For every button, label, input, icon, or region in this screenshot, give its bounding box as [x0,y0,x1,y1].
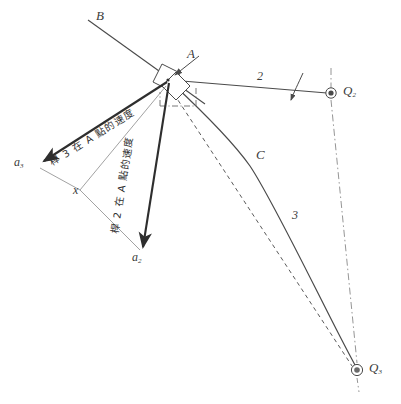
pivot-q3 [351,364,362,375]
velocity-vector-a2 [143,83,169,247]
label-pivot-q2-subscript: 2 [352,91,356,99]
label-unknown-x: x [73,183,78,198]
label-link-2: 2 [257,69,263,84]
label-point-b: B [96,8,104,24]
label-pivot-q2-letter: Q [343,83,352,98]
label-pivot-q3-subscript: 3 [378,368,382,376]
label-link-3: 3 [292,208,298,223]
label-vector-a2-subscript: 2 [138,257,142,265]
label-vector-a3-subscript: 3 [20,162,24,170]
label-pivot-q3-letter: Q [369,360,378,375]
figure-canvas: B A C 2 3 Q2 Q3 a3 a2 x 桿 3 在 A 點的速度 桿 2… [0,0,401,404]
label-pivot-q2: Q2 [343,83,356,99]
label-vector-a2: a2 [132,250,142,265]
chord-a-q3-dashed [174,94,352,366]
label-point-c: C [256,147,265,163]
line-b-guide [88,20,205,104]
link-2 [170,80,327,93]
label-pivot-q3: Q3 [369,360,382,376]
pivot-q2 [326,88,336,98]
frame-line-q2-q3 [331,68,359,392]
rotation-arrow-link2[interactable] [291,73,303,100]
label-vector-a3: a3 [14,155,24,170]
label-point-a: A [187,46,195,62]
link-3 [173,84,355,365]
diagram-svg [0,0,401,404]
